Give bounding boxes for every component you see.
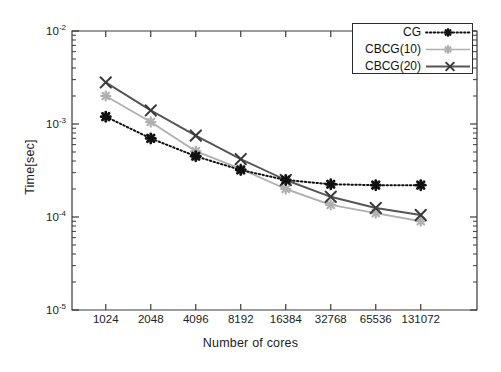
legend-swatch-cg [424, 24, 472, 41]
legend: CG CBCG(10) [352, 23, 473, 74]
legend-entry-cg: CG [353, 24, 474, 41]
y-axis-title: Time[sec] [23, 117, 37, 217]
x-axis-title: Number of cores [0, 336, 501, 350]
series-cbcg20 [101, 77, 426, 220]
y-tick-label: 10-2 [30, 23, 66, 37]
legend-entry-cbcg20: CBCG(20) [353, 58, 474, 75]
legend-label-cbcg10: CBCG(10) [353, 41, 424, 58]
chart-figure: 10-210-310-410-5 Number of cores Time[se… [0, 0, 501, 372]
legend-swatch-cbcg20 [424, 58, 472, 75]
legend-entry-cbcg10: CBCG(10) [353, 41, 474, 58]
y-tick-label: 10-5 [30, 302, 66, 316]
x-tick-label: 131072 [391, 313, 451, 325]
legend-swatch-cbcg10 [424, 41, 472, 58]
legend-label-cbcg20: CBCG(20) [353, 58, 424, 75]
legend-label-cg: CG [353, 24, 424, 41]
